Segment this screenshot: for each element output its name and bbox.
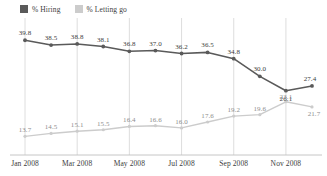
data-point-label: 19.2 (227, 106, 240, 114)
data-point-label: 36.5 (201, 41, 214, 49)
data-point[interactable] (206, 120, 209, 123)
data-point[interactable] (180, 52, 184, 56)
series-line (25, 102, 312, 137)
series-line (25, 40, 312, 90)
data-point[interactable] (206, 51, 210, 55)
data-point-label: 21.7 (308, 110, 321, 118)
chart-canvas (0, 0, 327, 176)
data-point-label: 36.8 (123, 40, 136, 48)
x-axis-tick-label: Mar 2008 (62, 159, 92, 168)
line-chart: % Hiring% Letting go 39.838.538.838.136.… (0, 0, 327, 176)
data-point[interactable] (101, 45, 105, 49)
data-point-label: 16.0 (175, 118, 188, 126)
series-letting-go[interactable] (23, 100, 313, 138)
data-point-label: 27.4 (304, 75, 317, 83)
data-point-label: 15.5 (97, 120, 110, 128)
data-point[interactable] (49, 132, 52, 135)
x-axis-tick-label: Sep 2008 (219, 159, 248, 168)
data-point-label: 16.6 (149, 116, 162, 124)
data-point[interactable] (75, 42, 79, 46)
data-point[interactable] (49, 43, 53, 47)
series-hiring[interactable] (23, 38, 314, 92)
data-point[interactable] (128, 125, 131, 128)
data-point[interactable] (76, 130, 79, 133)
data-point[interactable] (127, 49, 131, 53)
data-point[interactable] (232, 57, 236, 61)
data-point[interactable] (23, 135, 26, 138)
data-point[interactable] (310, 84, 314, 88)
data-point-label: 39.8 (19, 29, 32, 37)
data-point-label: 16.4 (123, 116, 136, 124)
data-point-label: 19.6 (253, 105, 266, 113)
data-point-label: 36.2 (175, 43, 188, 51)
gridlines (25, 18, 286, 155)
data-point[interactable] (154, 49, 158, 53)
data-point-label: 30.0 (253, 65, 266, 73)
data-point-label: 13.7 (19, 126, 32, 134)
data-point[interactable] (258, 113, 261, 116)
data-point[interactable] (232, 115, 235, 118)
data-point-label: 15.1 (71, 121, 84, 129)
x-axis-tick-label: Jul 2008 (168, 159, 194, 168)
data-point[interactable] (102, 128, 105, 131)
data-point-label: 17.6 (201, 112, 214, 120)
data-point-label: 38.5 (45, 34, 58, 42)
x-axis-tick-label: May 2008 (114, 159, 145, 168)
data-point-label: 34.8 (227, 48, 240, 56)
data-point-label: 23.1 (280, 93, 293, 101)
data-point[interactable] (180, 126, 183, 129)
data-point[interactable] (258, 74, 262, 78)
data-point[interactable] (23, 38, 27, 42)
data-point-label: 37.0 (149, 40, 162, 48)
data-point-label: 38.8 (71, 33, 84, 41)
data-point-label: 38.1 (97, 36, 110, 44)
x-axis-tick-label: Nov 2008 (271, 159, 302, 168)
x-axis-tick-label: Jan 2008 (11, 159, 39, 168)
plot-area: 39.838.538.838.136.837.036.236.534.830.0… (0, 0, 327, 176)
data-point-label: 14.5 (45, 123, 58, 131)
data-point[interactable] (310, 105, 313, 108)
data-point[interactable] (154, 124, 157, 127)
